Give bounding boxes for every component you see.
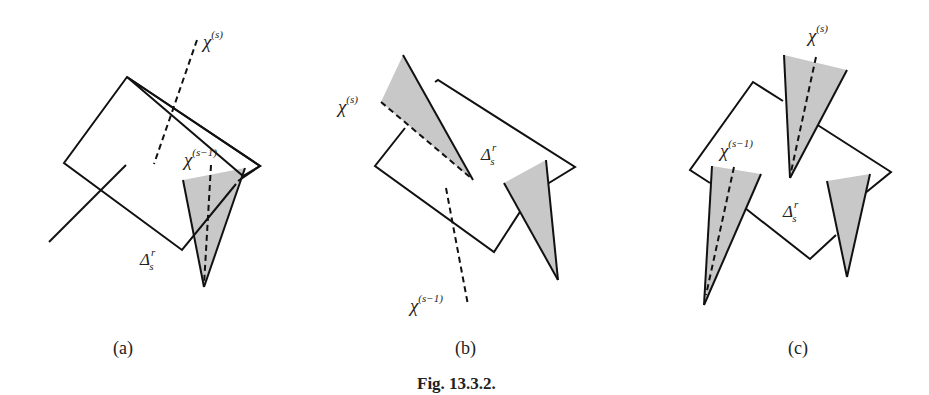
panel-b-delta-label: Δrs — [480, 141, 497, 167]
panel-a-delta-label: Δrs — [139, 246, 156, 272]
panel-c-square-outline — [690, 82, 783, 183]
panel-c-chi-s1-label: χ(s−1) — [718, 137, 753, 161]
panel-b-chi-s-label: χ(s) — [336, 93, 358, 117]
panel-c-label: (c) — [788, 338, 808, 359]
panel-a-label: (a) — [113, 338, 133, 359]
panel-a-chi-s-label: χ(s) — [201, 28, 223, 52]
panel-c-delta-label: Δrs — [782, 198, 799, 224]
panel-b-cone-2-fill — [504, 160, 558, 280]
panel-a-outer-line — [49, 165, 126, 242]
figure-caption: Fig. 13.3.2. — [417, 374, 496, 393]
panel-c-chi-s-label: χ(s) — [806, 22, 828, 46]
panel-c: χ(s) χ(s−1) Δrs (c) — [690, 22, 891, 359]
panel-b-chi-s1-label: χ(s−1) — [408, 292, 443, 316]
panel-b-label: (b) — [455, 338, 476, 359]
panel-a-chi-s-dashed-line — [154, 40, 197, 164]
panel-a-square-outline — [64, 77, 260, 250]
panel-b-square-outline — [435, 80, 575, 186]
panel-b-chi-s1-dashed-line — [446, 188, 468, 305]
panel-b-cone-1-fill — [381, 55, 473, 180]
figure-canvas: χ(s) χ(s−1) Δrs (a) χ(s) χ(s−1) Δrs (b) — [0, 0, 929, 395]
panel-b: χ(s) χ(s−1) Δrs (b) — [336, 55, 575, 359]
panel-a-square — [127, 77, 260, 176]
panel-a: χ(s) χ(s−1) Δrs (a) — [49, 28, 260, 359]
panel-c-cone-right-fill — [827, 174, 870, 277]
panel-a-chi-s1-label: χ(s−1) — [182, 146, 217, 170]
